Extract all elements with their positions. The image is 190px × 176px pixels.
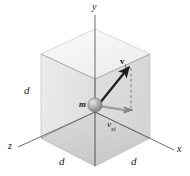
vector-label-velocity-initial: vi [120,51,126,70]
particle-sphere [88,98,102,112]
axis-label-x: x [177,144,181,154]
dimension-label-front-left: d [59,156,65,167]
axis-label-y: y [92,2,96,12]
dimension-label-left: d [24,85,30,96]
dimension-label-front-right: d [131,156,137,167]
cube-faces [41,29,150,166]
vector-subscript-xi: xi [111,125,116,132]
axis-label-z: z [8,141,12,151]
particle-mass-label: m [79,100,86,109]
vector-label-velocity-x: vxi [107,114,116,133]
figure-canvas: y x z d d d m vi vxi [0,0,190,176]
vector-subscript-i: i [125,62,127,69]
